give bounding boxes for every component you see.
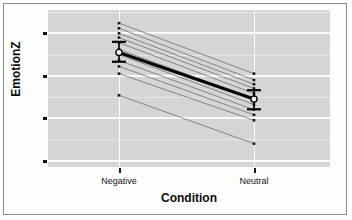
endpoint-dot [253, 114, 256, 117]
endpoint-dot [253, 119, 256, 122]
subject-lines-group [119, 23, 254, 144]
x-tick-label: Negative [79, 176, 159, 186]
x-tick-mark [254, 168, 256, 173]
endpoint-dot [118, 72, 121, 75]
endpoint-dot [118, 22, 121, 25]
y-axis-title: EmotionZ [9, 21, 23, 117]
data-overlay [48, 10, 330, 167]
mean-marker [116, 49, 122, 55]
endpoint-dot [253, 142, 256, 145]
endpoint-dot [118, 32, 121, 35]
y-tick-mark [43, 75, 47, 78]
chart-figure: EmotionZ 10-1-2 NegativeNeutral Conditio… [0, 0, 352, 220]
endpoint-dot [253, 72, 256, 75]
endpoint-dot [118, 94, 121, 97]
x-tick-label: Neutral [214, 176, 294, 186]
endpoint-dot [253, 79, 256, 82]
subject-line [119, 23, 254, 73]
plot-panel [48, 10, 330, 167]
endpoint-dot [118, 65, 121, 68]
y-tick-mark [43, 160, 47, 163]
x-tick-mark [119, 168, 121, 173]
mean-line-group [119, 52, 254, 99]
y-tick-mark [43, 32, 47, 35]
mean-marker [251, 96, 257, 102]
mean-line [119, 52, 254, 99]
y-tick-mark [43, 117, 47, 120]
endpoint-dot [118, 36, 121, 39]
subject-line [119, 28, 254, 80]
endpoint-dot [118, 27, 121, 30]
endpoint-dot [253, 83, 256, 86]
x-axis-title: Condition [48, 191, 330, 205]
